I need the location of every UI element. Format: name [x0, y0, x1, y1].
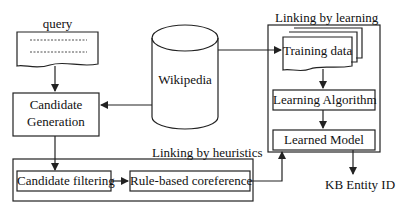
heuristics-group-title: Linking by heuristics: [152, 146, 263, 160]
query-label: query: [40, 17, 75, 31]
candidate-generation-line1: Candidate: [13, 98, 99, 112]
kb-entity-id-label: KB Entity ID: [325, 178, 395, 192]
candidate-generation-line2: Generation: [13, 115, 99, 129]
rule-based-coreference-label: Rule-based coreference: [130, 174, 250, 188]
wikipedia-label: Wikipedia: [152, 73, 218, 87]
learning-algorithm-label: Learning Algorithm: [273, 93, 375, 107]
learning-group-title: Linking by learning: [275, 11, 378, 25]
query-document-shape: [17, 32, 98, 67]
candidate-filtering-label: Candidate filtering: [17, 174, 111, 188]
training-data-label: Training data: [283, 44, 352, 58]
entity-linking-diagram: query Wikipedia Candidate Generation Lin…: [0, 0, 398, 210]
learned-model-label: Learned Model: [273, 133, 375, 147]
